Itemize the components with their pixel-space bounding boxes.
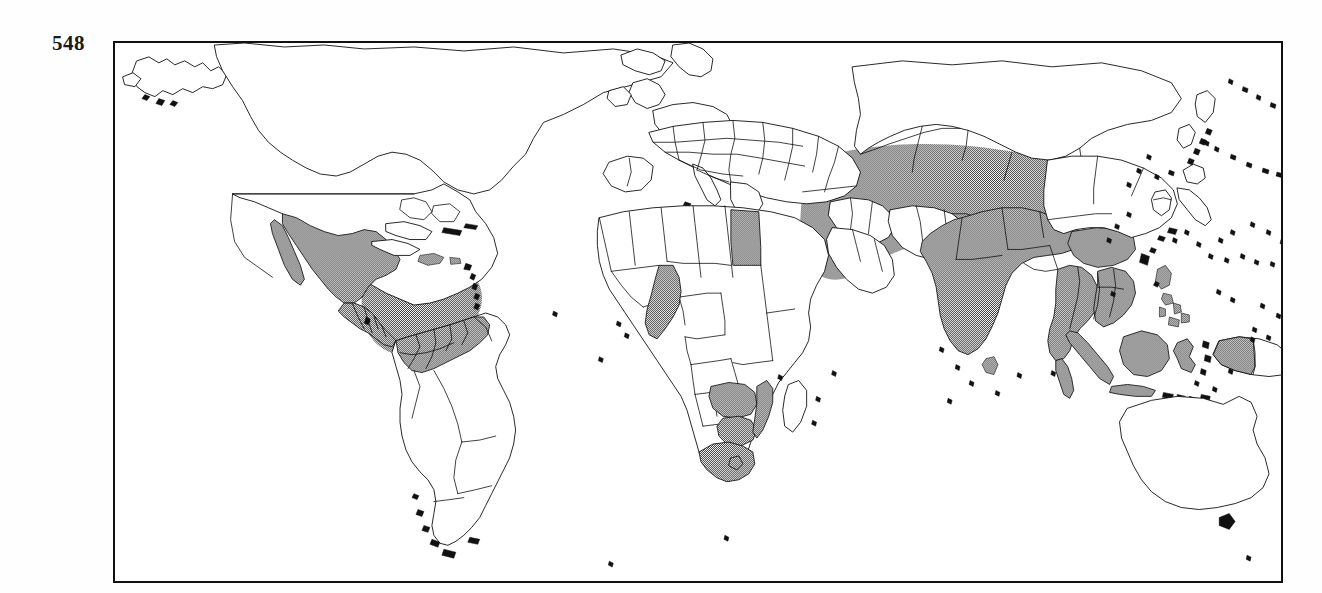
page-number: 548 xyxy=(52,33,85,54)
world-distribution-map xyxy=(115,43,1281,581)
landmass-outlines xyxy=(123,43,1281,567)
map-frame xyxy=(113,41,1283,583)
page-canvas: 548 xyxy=(0,0,1322,593)
